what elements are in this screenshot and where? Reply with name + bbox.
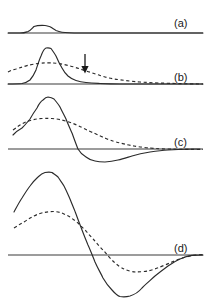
panel-a-label: (a) — [174, 17, 187, 29]
panel-d-solid-curve — [14, 172, 203, 297]
panel-c-label: (c) — [174, 136, 187, 148]
waveform-figure: (a) (b) (c) (d) — [0, 0, 210, 308]
panel-a: (a) — [8, 17, 203, 33]
panel-d-label: (d) — [174, 242, 187, 254]
panel-c: (c) — [8, 97, 203, 162]
panel-b-label: (b) — [174, 71, 187, 83]
panel-b: (b) — [8, 48, 203, 84]
feature-arrow-icon — [81, 54, 88, 74]
panel-c-solid-curve — [13, 97, 200, 162]
figure-canvas: (a) (b) (c) (d) — [0, 0, 210, 308]
panel-d: (d) — [8, 172, 203, 297]
